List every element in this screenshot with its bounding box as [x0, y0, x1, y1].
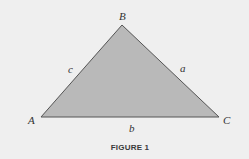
side-label-b: b — [129, 122, 135, 134]
triangle-figure: B A C c a b FIGURE 1 — [0, 0, 249, 159]
figure-caption: FIGURE 1 — [111, 143, 150, 152]
side-label-a: a — [180, 62, 186, 74]
side-label-c: c — [68, 63, 73, 75]
vertex-label-a: A — [27, 114, 35, 126]
vertex-label-b: B — [119, 10, 126, 22]
vertex-label-c: C — [223, 114, 231, 126]
